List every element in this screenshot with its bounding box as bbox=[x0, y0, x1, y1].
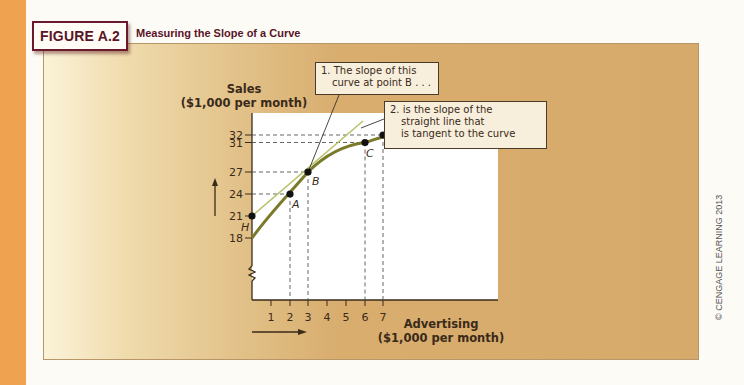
callout-2-line-3: is tangent to the curve bbox=[390, 128, 541, 140]
svg-text:27: 27 bbox=[229, 166, 243, 179]
point-c bbox=[361, 139, 368, 146]
svg-text:($1,000 per month): ($1,000 per month) bbox=[378, 331, 504, 345]
callout-1-line-2: curve at point B . . . bbox=[321, 77, 433, 89]
svg-text:3: 3 bbox=[305, 311, 312, 324]
svg-text:Sales: Sales bbox=[227, 82, 262, 96]
callout-2: 2. is the slope of the straight line tha… bbox=[384, 101, 547, 149]
callout-1-line-1: 1. The slope of this bbox=[321, 65, 433, 77]
svg-text:5: 5 bbox=[343, 311, 350, 324]
svg-text:1: 1 bbox=[268, 311, 275, 324]
callout-2-line-2: straight line that bbox=[390, 116, 541, 128]
slope-chart: 32 31 27 24 21 18 1 2 3 4 5 6 7 bbox=[0, 0, 744, 385]
x-tick-labels: 1 2 3 4 5 6 7 bbox=[268, 311, 387, 324]
svg-text:C: C bbox=[366, 147, 374, 160]
svg-text:B: B bbox=[312, 175, 320, 188]
svg-text:24: 24 bbox=[229, 188, 243, 201]
x-axis-title: Advertising ($1,000 per month) bbox=[378, 317, 504, 345]
y-axis-title: Sales ($1,000 per month) bbox=[181, 82, 307, 110]
point-h bbox=[248, 212, 255, 219]
y-direction-arrow bbox=[212, 178, 218, 216]
svg-text:H: H bbox=[241, 221, 249, 234]
svg-text:4: 4 bbox=[324, 311, 331, 324]
copyright-notice: © CENGAGE LEARNING 2013 bbox=[714, 195, 724, 320]
svg-text:6: 6 bbox=[362, 311, 369, 324]
x-direction-arrow bbox=[252, 329, 307, 335]
callout-1: 1. The slope of this curve at point B . … bbox=[315, 62, 439, 95]
point-b bbox=[304, 168, 311, 175]
svg-text:2: 2 bbox=[287, 311, 294, 324]
svg-text:7: 7 bbox=[380, 311, 387, 324]
svg-text:31: 31 bbox=[229, 137, 243, 150]
svg-text:Advertising: Advertising bbox=[404, 317, 479, 331]
point-a bbox=[286, 190, 293, 197]
x-ticks bbox=[271, 300, 383, 306]
svg-text:A: A bbox=[291, 198, 300, 211]
svg-text:($1,000 per month): ($1,000 per month) bbox=[181, 96, 307, 110]
callout-2-line-1: 2. is the slope of the bbox=[390, 104, 541, 116]
